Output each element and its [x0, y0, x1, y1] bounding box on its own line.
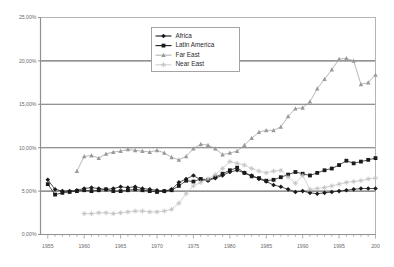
data-point: [104, 187, 108, 191]
data-point: [315, 171, 319, 175]
y-tick-label: 15,00%: [19, 101, 37, 107]
data-point: [97, 188, 101, 192]
x-tick-label: 200: [371, 243, 380, 249]
data-point: [177, 184, 181, 188]
chart-container: 0,00%5,00%10,00%15,00%20,00%25,00% 19551…: [0, 0, 394, 267]
data-point: [352, 161, 356, 165]
x-tick-label: 1985: [260, 243, 272, 249]
data-point: [308, 174, 312, 178]
x-tick-label: 1965: [115, 243, 127, 249]
chart-legend: AfricaLatin AmericaFar EastNear East: [152, 28, 240, 72]
data-point: [330, 167, 334, 171]
data-point: [90, 189, 94, 193]
data-point: [279, 175, 283, 179]
legend-label: Near East: [176, 60, 205, 67]
data-point: [155, 190, 159, 194]
y-tick-label: 20,00%: [19, 58, 37, 64]
y-tick-label: 10,00%: [19, 145, 37, 151]
x-tick-label: 1970: [151, 243, 163, 249]
data-point: [359, 160, 363, 164]
data-point: [235, 166, 239, 170]
data-point: [228, 168, 232, 172]
legend-label: Latin America: [176, 41, 215, 48]
data-point: [221, 172, 225, 176]
data-point: [374, 156, 378, 160]
legend-label: Africa: [176, 32, 193, 39]
legend-label: Far East: [176, 51, 200, 58]
data-point: [111, 189, 115, 193]
data-point: [148, 189, 152, 193]
data-point: [60, 191, 64, 195]
data-point: [162, 189, 166, 193]
data-point: [264, 179, 268, 183]
data-point: [323, 168, 327, 172]
data-point: [133, 187, 137, 191]
x-tick-label: 1960: [78, 243, 90, 249]
x-tick-label: 1980: [224, 243, 236, 249]
data-point: [293, 170, 297, 174]
data-point: [344, 159, 348, 163]
data-point: [162, 44, 166, 48]
data-point: [184, 179, 188, 183]
x-tick-label: 1990: [297, 243, 309, 249]
data-point: [82, 188, 86, 192]
x-tick-label: 1975: [188, 243, 200, 249]
data-point: [250, 174, 254, 178]
y-tick-label: 0,00%: [22, 231, 37, 237]
data-point: [272, 178, 276, 182]
data-point: [119, 189, 123, 193]
data-point: [243, 171, 247, 175]
data-point: [141, 188, 145, 192]
data-point: [126, 188, 130, 192]
x-tick-label: 1995: [333, 243, 345, 249]
data-point: [75, 189, 79, 193]
data-point: [192, 180, 196, 184]
x-tick-label: 1955: [42, 243, 54, 249]
y-tick-label: 25,00%: [19, 14, 37, 20]
data-point: [257, 176, 261, 180]
data-point: [53, 193, 57, 197]
y-tick-label: 5,00%: [22, 188, 37, 194]
line-chart: 0,00%5,00%10,00%15,00%20,00%25,00% 19551…: [0, 0, 394, 267]
data-point: [68, 190, 72, 194]
data-point: [170, 188, 174, 192]
data-point: [46, 182, 50, 186]
data-point: [337, 163, 341, 167]
data-point: [366, 158, 370, 162]
